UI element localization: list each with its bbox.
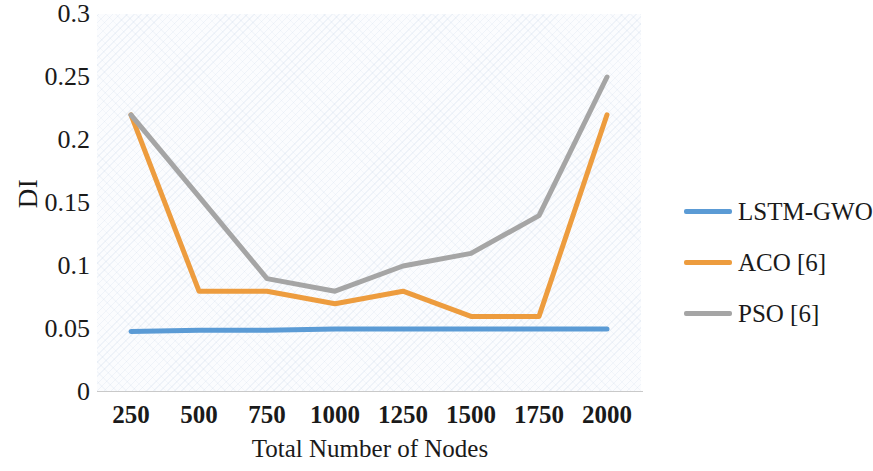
series-lines [97,14,641,392]
x-axis-tick-labels: 25050075010001250150017502000 [97,400,657,434]
legend-item[interactable]: ACO [6] [684,237,868,288]
legend-item[interactable]: PSO [6] [684,288,868,339]
x-axis-line [97,391,643,392]
legend-item-label: ACO [6] [738,249,826,277]
x-axis-tick-label: 2000 [567,400,647,430]
legend-item-label: PSO [6] [738,300,819,328]
y-axis-tick-label: 0.15 [28,190,90,216]
chart-legend: LSTM-GWOACO [6]PSO [6] [684,186,868,339]
legend-item-label: LSTM-GWO [738,198,873,226]
series-line-lstm-gwo [131,329,607,332]
y-axis-tick-label: 0.3 [28,1,90,27]
y-axis-tick-label: 0 [28,379,90,405]
y-axis-tick-labels: 00.050.10.150.20.250.3 [28,0,90,471]
y-axis-tick-label: 0.25 [28,64,90,90]
y-axis-tick-label: 0.1 [28,253,90,279]
legend-color-swatch [684,260,732,265]
y-axis-tick-label: 0.2 [28,127,90,153]
legend-item[interactable]: LSTM-GWO [684,186,868,237]
y-axis-tick-label: 0.05 [28,316,90,342]
series-line-pso-6 [131,77,607,291]
plot-area [97,14,641,392]
legend-color-swatch [684,209,732,214]
x-axis-title: Total Number of Nodes [97,434,643,464]
legend-color-swatch [684,311,732,316]
